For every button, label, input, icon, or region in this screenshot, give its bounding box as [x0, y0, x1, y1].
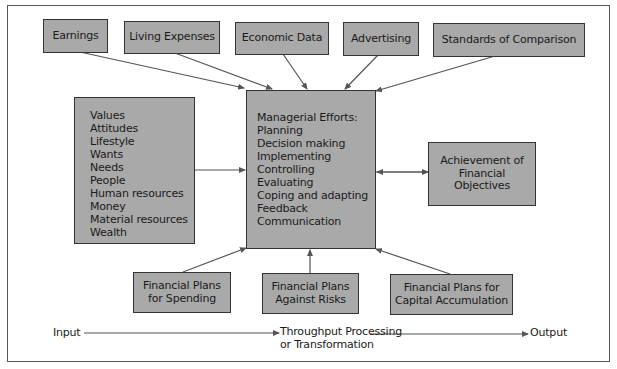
flow-output-label: Output — [530, 327, 567, 340]
resource-item: People — [90, 174, 125, 187]
resource-item: Material resources — [90, 213, 188, 226]
achievement-line: Achievement of — [440, 155, 524, 168]
resource-item: Wants — [90, 148, 123, 161]
resource-item: Values — [90, 109, 125, 122]
managerial-item: Decision making — [257, 137, 345, 150]
managerial-item: Coping and adapting — [257, 189, 368, 202]
managerial-item: Implementing — [257, 150, 331, 163]
input-box-earnings: Earnings — [43, 19, 108, 53]
box-label: Advertising — [351, 33, 411, 46]
input-box-advertising: Advertising — [343, 22, 419, 56]
plan-box-spending: Financial Plans for Spending — [133, 272, 231, 313]
input-box-economic-data: Economic Data — [235, 22, 329, 55]
plan-line: Capital Accumulation — [395, 295, 508, 308]
plan-line: Financial Plans — [143, 280, 221, 293]
plan-box-capital-accumulation: Financial Plans for Capital Accumulation — [390, 274, 513, 315]
flow-throughput-label: Throughput Processing or Transformation — [280, 326, 372, 351]
managerial-item: Feedback — [257, 202, 308, 215]
input-box-living-expenses: Living Expenses — [124, 21, 220, 54]
resource-item: Needs — [90, 161, 123, 174]
input-box-standards-of-comparison: Standards of Comparison — [433, 23, 585, 57]
achievement-box: Achievement of Financial Objectives — [428, 142, 536, 206]
resource-item: Human resources — [90, 187, 183, 200]
managerial-efforts-box: Managerial Efforts: Planning Decision ma… — [246, 90, 376, 249]
box-label: Economic Data — [242, 32, 322, 45]
resource-item: Lifestyle — [90, 135, 134, 148]
throughput-line-2: or Transformation — [280, 339, 372, 352]
managerial-efforts-title: Managerial Efforts: — [257, 111, 357, 124]
box-label: Standards of Comparison — [442, 34, 577, 47]
plan-line: Against Risks — [275, 294, 346, 307]
resource-item: Wealth — [90, 226, 127, 239]
throughput-line-1: Throughput Processing — [280, 326, 372, 339]
managerial-item: Communication — [257, 215, 341, 228]
resources-box: Values Attitudes Lifestyle Wants Needs P… — [74, 97, 195, 244]
achievement-line: Objectives — [454, 180, 510, 193]
plan-line: Financial Plans for — [404, 282, 500, 295]
managerial-item: Controlling — [257, 163, 315, 176]
plan-line: for Spending — [148, 293, 216, 306]
flow-input-label: Input — [53, 327, 80, 340]
managerial-item: Planning — [257, 124, 303, 137]
managerial-item: Evaluating — [257, 176, 313, 189]
plan-line: Financial Plans — [272, 281, 350, 294]
box-label: Living Expenses — [129, 31, 215, 44]
resource-item: Attitudes — [90, 122, 138, 135]
box-label: Earnings — [52, 30, 98, 43]
plan-box-risks: Financial Plans Against Risks — [262, 273, 359, 314]
resource-item: Money — [90, 200, 125, 213]
